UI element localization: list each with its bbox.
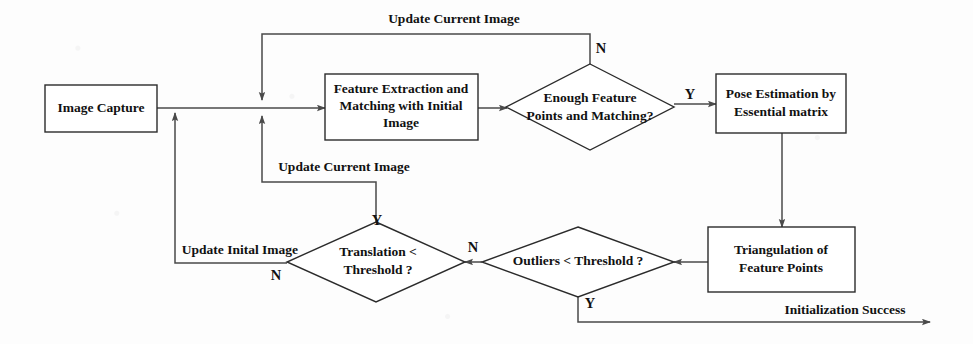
flowchart-svg: Image Capture Feature Extraction and Mat… xyxy=(0,0,973,344)
node-outliers-threshold: Outliers < Threshold ? xyxy=(482,227,674,297)
feature-extraction-label-line3: Image xyxy=(383,115,419,130)
enough-features-label-line1: Enough Feature xyxy=(543,90,636,105)
flowchart-canvas: Image Capture Feature Extraction and Mat… xyxy=(0,0,973,344)
edge-label-update-inital-image: Update Inital Image xyxy=(182,242,298,257)
node-image-capture: Image Capture xyxy=(45,85,157,132)
translation-threshold-label-line1: Translation < xyxy=(339,244,417,259)
branch-label-n-translation: N xyxy=(271,267,282,283)
node-pose-estimation: Pose Estimation by Essential matrix xyxy=(716,74,846,133)
edge-translation-no-to-capture xyxy=(175,113,287,263)
node-enough-features: Enough Feature Points and Matching? xyxy=(506,64,674,150)
edge-label-update-current-image-mid: Update Current Image xyxy=(278,159,410,174)
branch-label-y-outliers: Y xyxy=(585,295,596,311)
edge-label-initialization-success: Initialization Success xyxy=(784,302,905,317)
enough-features-label-line2: Points and Matching? xyxy=(527,108,654,123)
feature-extraction-label-line1: Feature Extraction and xyxy=(334,81,469,96)
image-capture-label: Image Capture xyxy=(57,100,144,115)
enough-features-diamond xyxy=(506,64,674,150)
translation-threshold-label-line2: Threshold ? xyxy=(343,262,412,277)
feature-extraction-label-line2: Matching with Initial xyxy=(339,98,462,113)
outliers-threshold-label: Outliers < Threshold ? xyxy=(513,253,644,268)
node-translation-threshold: Translation < Threshold ? xyxy=(287,222,465,302)
triangulation-label-line2: Feature Points xyxy=(739,260,823,275)
node-feature-extraction: Feature Extraction and Matching with Ini… xyxy=(325,74,478,140)
branch-label-n-enough-features: N xyxy=(596,40,607,56)
pose-estimation-label-line2: Essential matrix xyxy=(734,104,828,119)
branch-label-y-enough-features: Y xyxy=(685,86,696,102)
pose-estimation-label-line1: Pose Estimation by xyxy=(726,86,837,101)
triangulation-label-line1: Triangulation of xyxy=(734,242,828,257)
branch-label-y-translation: Y xyxy=(372,212,383,228)
branch-label-n-outliers: N xyxy=(468,239,479,255)
node-triangulation: Triangulation of Feature Points xyxy=(708,227,855,292)
edge-label-update-current-image-top: Update Current Image xyxy=(388,11,520,26)
